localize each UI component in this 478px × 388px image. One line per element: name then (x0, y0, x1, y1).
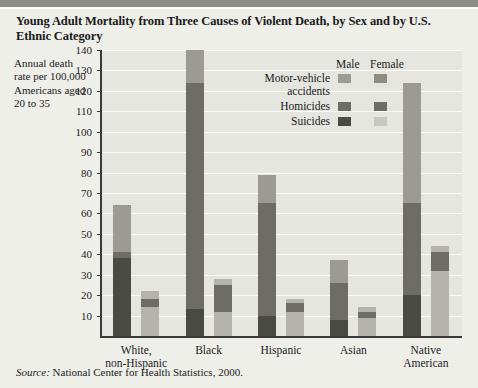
bar-male-black (186, 50, 204, 336)
bar-segment-homicides (330, 283, 348, 320)
legend-swatch-female (374, 117, 387, 126)
top-rule-highlight (0, 7, 478, 9)
source-label: Source: (16, 366, 50, 378)
y-axis-tick-label: 10 (58, 311, 92, 322)
top-rule-decoration (0, 0, 478, 7)
y-axis-tick (97, 316, 102, 317)
y-axis-tick-label: 120 (58, 86, 92, 97)
bar-segment-motor-vehicle-accidents (113, 205, 131, 252)
bar-male-hispanic (258, 175, 276, 336)
x-axis-label-line1: Native (366, 344, 478, 357)
source-text: National Center for Health Statistics, 2… (53, 366, 243, 378)
legend-header-female: Female (370, 58, 404, 71)
bar-female-asian (358, 307, 376, 336)
y-axis-tick (97, 193, 102, 194)
legend-swatch-female (374, 74, 387, 83)
legend-row: Homicides (228, 100, 398, 115)
bar-female-hispanic (286, 299, 304, 336)
bar-segment-homicides (214, 285, 232, 312)
legend-swatch-male (338, 74, 351, 83)
source-note: Source: National Center for Health Stati… (16, 366, 243, 379)
y-axis-tick-label: 20 (58, 290, 92, 301)
bar-segment-suicides (214, 312, 232, 337)
legend-label-line1: Motor-vehicle (228, 72, 330, 85)
legend-header: Male Female (228, 58, 398, 72)
bar-segment-suicides (186, 309, 204, 336)
y-axis-tick-label: 60 (58, 208, 92, 219)
bar-segment-suicides (286, 312, 304, 337)
bar-segment-homicides (258, 203, 276, 315)
bar-segment-homicides (113, 252, 131, 258)
legend-label-line1: Suicides (228, 115, 330, 128)
y-axis-tick-label: 40 (58, 249, 92, 260)
bar-segment-homicides (286, 303, 304, 311)
bar-segment-suicides (403, 295, 421, 336)
bar-segment-suicides (330, 320, 348, 336)
bar-segment-motor-vehicle-accidents (358, 307, 376, 311)
legend-label-line2: accidents (228, 85, 330, 98)
bar-segment-homicides (431, 252, 449, 270)
legend-swatch-male (338, 117, 351, 126)
bar-segment-suicides (431, 271, 449, 336)
y-axis-tick-label: 70 (58, 188, 92, 199)
y-axis-tick-label: 100 (58, 127, 92, 138)
legend-header-male: Male (336, 58, 360, 71)
bar-segment-motor-vehicle-accidents (431, 246, 449, 252)
bar-female-native-american (431, 246, 449, 336)
y-axis-tick (97, 132, 102, 133)
y-axis-tick (97, 50, 102, 51)
y-axis-tick (97, 91, 102, 92)
x-axis-label-line2: American (366, 357, 478, 370)
bar-segment-suicides (141, 307, 159, 336)
bar-segment-homicides (141, 299, 159, 307)
legend: Male Female Motor-vehicleaccidentsHomici… (228, 58, 398, 130)
bar-segment-motor-vehicle-accidents (141, 291, 159, 299)
chart-page: Young Adult Mortality from Three Causes … (0, 0, 478, 388)
legend-label-line1: Homicides (228, 100, 330, 113)
gridline (102, 50, 462, 51)
bar-segment-suicides (113, 258, 131, 336)
y-axis-tick (97, 173, 102, 174)
legend-rows: Motor-vehicleaccidentsHomicidesSuicides (228, 72, 398, 130)
y-axis-tick (97, 295, 102, 296)
y-axis-tick-label: 80 (58, 168, 92, 179)
bar-male-native-american (403, 83, 421, 336)
y-axis-tick-label: 110 (58, 106, 92, 117)
y-axis-tick-label: 130 (58, 65, 92, 76)
bar-segment-motor-vehicle-accidents (330, 260, 348, 282)
bar-male-white-non-hispanic (113, 205, 131, 336)
y-axis-tick (97, 213, 102, 214)
bar-segment-suicides (258, 316, 276, 336)
bar-segment-motor-vehicle-accidents (258, 175, 276, 204)
legend-row: Suicides (228, 115, 398, 130)
y-axis-tick-label: 30 (58, 270, 92, 281)
x-axis-label-native-american: NativeAmerican (366, 344, 478, 370)
bar-segment-suicides (358, 318, 376, 336)
legend-swatch-female (374, 102, 387, 111)
bar-segment-homicides (186, 83, 204, 310)
y-axis-tick (97, 275, 102, 276)
legend-swatch-male (338, 102, 351, 111)
bar-male-asian (330, 260, 348, 336)
legend-row: Motor-vehicleaccidents (228, 72, 398, 100)
legend-label: Motor-vehicleaccidents (228, 72, 330, 98)
bar-segment-motor-vehicle-accidents (186, 50, 204, 83)
bar-female-black (214, 279, 232, 336)
bar-segment-motor-vehicle-accidents (286, 299, 304, 303)
bar-female-white-non-hispanic (141, 291, 159, 336)
bar-segment-homicides (358, 312, 376, 318)
page-title: Young Adult Mortality from Three Causes … (16, 14, 456, 44)
bar-segment-motor-vehicle-accidents (403, 83, 421, 204)
y-axis-tick (97, 234, 102, 235)
y-axis-tick-label: 140 (58, 45, 92, 56)
y-axis-tick (97, 70, 102, 71)
y-axis-tick (97, 254, 102, 255)
bar-segment-homicides (403, 203, 421, 295)
y-axis-tick-label: 90 (58, 147, 92, 158)
legend-label: Suicides (228, 115, 330, 128)
y-axis-tick (97, 152, 102, 153)
y-axis-tick (97, 111, 102, 112)
bar-segment-motor-vehicle-accidents (214, 279, 232, 285)
legend-label: Homicides (228, 100, 330, 113)
y-axis-tick-label: 50 (58, 229, 92, 240)
